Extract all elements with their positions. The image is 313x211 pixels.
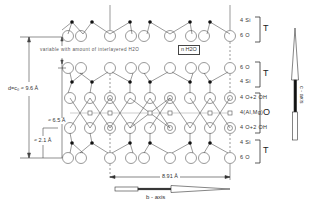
c-axis-label: c - axis <box>299 86 305 103</box>
c-axis-arrow <box>292 28 299 140</box>
bracket-label-tetra-top: T <box>263 24 269 33</box>
water-label-box: n H2O <box>178 45 200 55</box>
label-top-si: 4 Si <box>240 18 251 24</box>
bracket-label-tetra-bottom: T <box>263 146 269 155</box>
b-axis-label: b - axis <box>146 194 165 200</box>
t2-silicon-atoms <box>70 80 212 84</box>
t3-oxygen-atoms <box>63 153 236 164</box>
label-t3-si: 4 Si <box>240 140 251 146</box>
layer-thickness-label: ≈ 6.5 Å <box>48 118 65 124</box>
layer-brackets <box>255 17 260 163</box>
interlayer-note: variable with amount of interlayered H2O <box>40 48 139 53</box>
t3-silicon-atoms <box>70 141 212 145</box>
tetra-height-label: ≈ 2.1 Å <box>34 138 51 144</box>
label-t2-o: 6 O <box>240 65 250 71</box>
b-axis-arrow <box>115 186 230 193</box>
top-oxygen-atoms <box>63 31 236 42</box>
label-oct-upper: 4 O+2 OH <box>240 95 267 101</box>
label-t2-si: 4 Si <box>240 79 251 85</box>
top-silicon-atoms <box>70 20 212 24</box>
top-tetrahedral-bonds <box>62 5 230 34</box>
t2-oxygen-atoms <box>63 63 236 74</box>
label-oct-lower: 4 O+2 OH <box>240 125 267 131</box>
b-dimension-label: 8.91 Å <box>160 174 180 180</box>
label-t3-o: 6 O <box>240 155 250 161</box>
bracket-label-octa: O <box>263 108 270 117</box>
basal-spacing-label: d=c₀ ≈ 9.6 Å <box>8 86 38 92</box>
bracket-label-tetra-2: T <box>263 69 269 78</box>
label-top-o: 6 O <box>240 33 250 39</box>
label-oct-cation: 4(Al,Mg) <box>240 110 263 116</box>
